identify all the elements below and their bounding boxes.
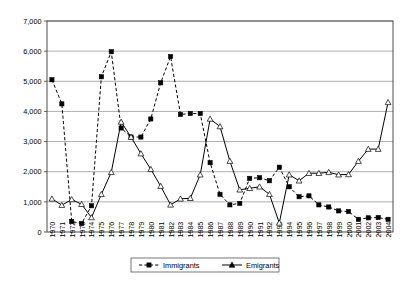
data-point-immigrants-2002	[366, 216, 370, 220]
data-point-immigrants-1993	[277, 165, 281, 169]
x-axis-tick-label: 1989	[237, 222, 245, 238]
data-point-immigrants-1995	[297, 195, 301, 199]
x-axis-tick-label: 1996	[306, 222, 314, 238]
x-axis-tick-label: 1978	[128, 222, 136, 238]
x-axis-tick-label: 1999	[336, 222, 344, 238]
data-point-emigrants-1981	[158, 183, 164, 188]
legend-marker-immigrants	[147, 263, 151, 267]
x-axis-tick-label: 1990	[247, 222, 255, 238]
data-point-immigrants-1977	[119, 126, 123, 130]
data-point-immigrants-1986	[208, 161, 212, 165]
data-point-immigrants-1984	[188, 111, 192, 115]
data-point-immigrants-1998	[327, 205, 331, 209]
data-point-emigrants-1994	[286, 172, 292, 177]
data-point-immigrants-1990	[248, 176, 252, 180]
x-axis-tick-label: 1981	[158, 222, 166, 238]
data-point-immigrants-1974	[89, 204, 93, 208]
data-point-immigrants-2001	[356, 217, 360, 221]
data-point-immigrants-2004	[386, 217, 390, 221]
data-point-emigrants-1980	[148, 166, 154, 171]
data-point-emigrants-1971	[59, 202, 65, 207]
x-axis-tick-label: 2000	[346, 222, 354, 238]
x-axis-tick-label: 1982	[168, 222, 176, 238]
x-axis-tick-label: 1992	[266, 222, 274, 238]
data-point-immigrants-1987	[218, 192, 222, 196]
x-axis-tick-label: 1994	[286, 222, 294, 238]
data-point-immigrants-1994	[287, 185, 291, 189]
y-axis-tick-label: 6,000	[23, 47, 41, 56]
x-axis-tick-label: 1975	[98, 222, 106, 238]
legend-label-emigrants: Emigrants	[246, 261, 280, 270]
data-point-immigrants-1971	[60, 102, 64, 106]
x-axis-tick-label: 1998	[326, 222, 334, 238]
x-axis-tick-label: 2004	[385, 222, 393, 238]
x-axis-tick-label: 1972	[69, 222, 77, 238]
data-point-emigrants-1979	[138, 151, 144, 156]
data-point-emigrants-1986	[207, 116, 213, 121]
y-axis-tick-label: 2,000	[23, 167, 41, 176]
y-axis-tick-label: 3,000	[23, 137, 41, 146]
x-axis-tick-label: 1997	[316, 222, 324, 238]
x-axis-tick-label: 2001	[355, 222, 363, 238]
data-point-emigrants-1977	[118, 119, 124, 124]
x-axis-tick-label: 1986	[207, 222, 215, 238]
x-axis-tick-label: 1980	[148, 222, 156, 238]
x-axis-tick-label: 2002	[365, 222, 373, 238]
x-axis-tick-label: 1991	[257, 222, 265, 238]
data-point-immigrants-1991	[257, 176, 261, 180]
y-axis-tick-label: 5,000	[23, 77, 41, 86]
data-point-immigrants-1999	[337, 209, 341, 213]
y-axis-tick-label: 7,000	[23, 17, 41, 26]
chart-container: 01,0002,0003,0004,0005,0006,0007,0001970…	[0, 0, 416, 286]
data-point-immigrants-1976	[109, 50, 113, 54]
x-axis-tick-label: 1976	[108, 222, 116, 238]
x-axis-tick-label: 1977	[118, 222, 126, 238]
data-point-immigrants-1985	[198, 111, 202, 115]
data-point-emigrants-1982	[168, 202, 174, 207]
x-axis-tick-label: 1983	[177, 222, 185, 238]
y-axis-tick-label: 0	[37, 228, 41, 237]
data-point-immigrants-1980	[149, 117, 153, 121]
data-point-immigrants-1989	[238, 201, 242, 205]
data-point-immigrants-1973	[80, 221, 84, 225]
data-point-immigrants-2003	[376, 215, 380, 219]
x-axis-tick-label: 1971	[59, 222, 67, 238]
data-point-emigrants-1991	[257, 184, 263, 189]
data-point-immigrants-1992	[267, 179, 271, 183]
x-axis-tick-label: 1985	[197, 222, 205, 238]
legend-label-immigrants: Immigrants	[163, 261, 200, 270]
data-point-emigrants-1985	[197, 172, 203, 177]
data-point-immigrants-1979	[139, 135, 143, 139]
y-axis-tick-label: 4,000	[23, 107, 41, 116]
immigrants-emigrants-line-chart: 01,0002,0003,0004,0005,0006,0007,0001970…	[0, 0, 416, 286]
data-point-immigrants-1981	[159, 81, 163, 85]
data-point-immigrants-1997	[317, 203, 321, 207]
x-axis-tick-label: 1984	[187, 222, 195, 238]
x-axis-tick-label: 1974	[88, 222, 96, 238]
x-axis-tick-label: 1987	[217, 222, 225, 238]
data-point-emigrants-1975	[98, 191, 104, 196]
x-axis-tick-label: 2003	[375, 222, 383, 238]
data-point-immigrants-2000	[346, 209, 350, 213]
data-point-immigrants-1988	[228, 203, 232, 207]
x-axis-tick-label: 1979	[138, 222, 146, 238]
x-axis-tick-label: 1988	[227, 222, 235, 238]
data-point-immigrants-1982	[168, 54, 172, 58]
data-point-immigrants-1996	[307, 194, 311, 198]
data-point-emigrants-2004	[385, 99, 391, 104]
data-point-immigrants-1975	[99, 75, 103, 79]
x-axis-tick-label: 1970	[49, 222, 57, 238]
data-point-emigrants-1988	[227, 158, 233, 163]
data-point-immigrants-1972	[70, 219, 74, 223]
series-line-emigrants	[52, 102, 388, 223]
y-axis-tick-label: 1,000	[23, 198, 41, 207]
data-point-emigrants-1970	[49, 196, 55, 201]
data-point-immigrants-1970	[50, 78, 54, 82]
x-axis-tick-label: 1995	[296, 222, 304, 238]
data-point-immigrants-1983	[178, 112, 182, 116]
